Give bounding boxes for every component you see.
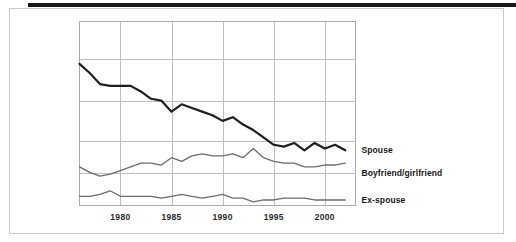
series-annotations: SpouseBoyfriend/girlfriendEx-spouse [362, 145, 443, 205]
series-line-ex-spouse [80, 191, 346, 202]
x-tick-label-1980: 1980 [110, 212, 130, 222]
gridlines [80, 22, 356, 206]
x-axis-tick-labels: 19801985199019952000 [110, 212, 335, 222]
series-lines [80, 64, 346, 202]
series-label-ex-spouse: Ex-spouse [362, 195, 406, 205]
line-chart: 19801985199019952000 SpouseBoyfriend/gir… [0, 0, 516, 242]
chart-svg: 19801985199019952000 SpouseBoyfriend/gir… [0, 0, 516, 242]
series-label-spouse: Spouse [362, 145, 393, 155]
series-line-spouse [80, 64, 346, 150]
x-tick-label-1995: 1995 [264, 212, 284, 222]
series-label-boyfriend-girlfriend: Boyfriend/girlfriend [362, 168, 443, 178]
series-line-boyfriend-girlfriend [80, 148, 346, 176]
x-tick-label-1985: 1985 [161, 212, 181, 222]
x-tick-label-2000: 2000 [315, 212, 335, 222]
x-tick-label-1990: 1990 [213, 212, 233, 222]
chart-page: 19801985199019952000 SpouseBoyfriend/gir… [0, 0, 516, 242]
